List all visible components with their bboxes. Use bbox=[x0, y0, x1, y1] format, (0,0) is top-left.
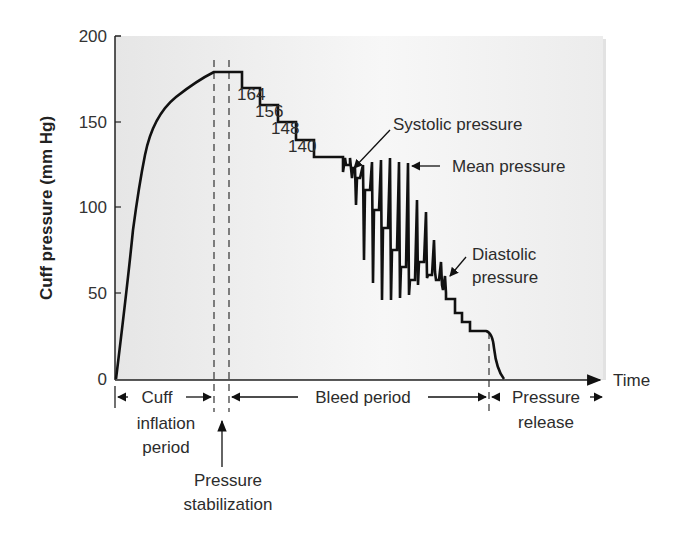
cuff-label-line1: Cuff bbox=[142, 388, 173, 407]
mean-pressure-label: Mean pressure bbox=[452, 157, 565, 176]
y-tick-100: 100 bbox=[79, 198, 107, 217]
cuff-label-line3: period bbox=[142, 438, 189, 457]
y-tick-150: 150 bbox=[79, 113, 107, 132]
y-tick-50: 50 bbox=[88, 284, 107, 303]
step-label-140: 140 bbox=[288, 137, 316, 156]
release-label-line1: Pressure bbox=[512, 388, 580, 407]
step-label-148: 148 bbox=[271, 119, 299, 138]
diastolic-pressure-label-line2: pressure bbox=[472, 268, 538, 287]
release-label-line2: release bbox=[518, 413, 574, 432]
y-tick-0: 0 bbox=[98, 370, 107, 389]
stabilization-label-line2: stabilization bbox=[184, 495, 273, 514]
stabilization-label-line1: Pressure bbox=[194, 471, 262, 490]
cuff-pressure-chart: 200 150 100 50 0 Cuff pressure (mm Hg) T… bbox=[0, 0, 696, 537]
y-axis-label: Cuff pressure (mm Hg) bbox=[37, 116, 56, 300]
systolic-pressure-label: Systolic pressure bbox=[393, 115, 522, 134]
diastolic-pressure-label-line1: Diastolic bbox=[472, 245, 537, 264]
y-tick-200: 200 bbox=[79, 27, 107, 46]
cuff-label-line2: inflation bbox=[137, 414, 196, 433]
y-axis: 200 150 100 50 0 Cuff pressure (mm Hg) bbox=[37, 27, 121, 389]
bleed-period-label: Bleed period bbox=[315, 388, 410, 407]
x-axis-label: Time bbox=[613, 371, 650, 390]
phase-labels: Cuff inflation period Pressure stabiliza… bbox=[137, 388, 580, 514]
